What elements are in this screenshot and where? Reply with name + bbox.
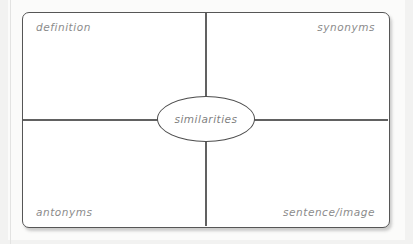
page-margin-rule-divider	[10, 0, 11, 244]
quadrant-label-definition: definition	[36, 22, 91, 33]
quadrant-label-synonyms: synonyms	[317, 22, 375, 33]
center-ellipse-node[interactable]: similarities	[157, 96, 255, 142]
graphic-organizer-frame: definition synonyms antonyms sentence/im…	[22, 12, 390, 228]
center-node-label: similarities	[174, 114, 237, 125]
quadrant-label-sentence-image: sentence/image	[283, 207, 375, 218]
worksheet-canvas: definition synonyms antonyms sentence/im…	[0, 0, 413, 244]
quadrant-label-antonyms: antonyms	[36, 207, 93, 218]
